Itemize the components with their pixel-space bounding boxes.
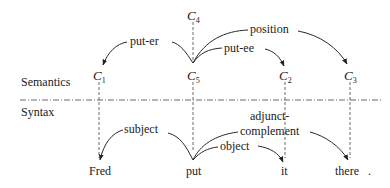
word-it: it — [281, 164, 288, 178]
syntax-label: Syntax — [21, 105, 54, 119]
put-ee-label: put-ee — [224, 41, 254, 55]
word-there: there — [335, 164, 359, 178]
svg-text:C5: C5 — [187, 68, 200, 85]
adjunct-complement-arc-right — [310, 132, 348, 160]
node-c2: C2 — [279, 68, 292, 85]
svg-text:C1: C1 — [93, 68, 106, 85]
adjunct-label: adjunct- — [250, 109, 289, 123]
svg-text:C2: C2 — [279, 68, 292, 85]
position-label: position — [250, 22, 289, 36]
svg-text:C3: C3 — [344, 68, 357, 85]
semantics-label: Semantics — [21, 75, 71, 89]
node-c5: C5 — [187, 68, 200, 85]
word-fred: Fred — [89, 164, 111, 178]
node-c4: C4 — [187, 8, 200, 25]
complement-label: complement — [240, 124, 300, 138]
semantics-syntax-diagram: Semantics Syntax C4 C1 C5 C2 C3 put-er p… — [0, 0, 390, 188]
put-er-arc-left — [103, 42, 127, 65]
subject-arc-left — [100, 130, 123, 160]
put-er-arc-right — [172, 42, 193, 63]
subject-label: subject — [124, 122, 159, 136]
put-er-label: put-er — [130, 34, 159, 48]
put-ee-arc-right — [265, 49, 284, 66]
subject-arc-right — [168, 133, 193, 160]
node-c1: C1 — [93, 68, 106, 85]
period: . — [368, 164, 371, 178]
object-arc-right — [258, 146, 283, 162]
node-c3: C3 — [344, 68, 357, 85]
svg-text:C4: C4 — [187, 8, 200, 25]
object-label: object — [220, 139, 250, 153]
position-arc-right — [298, 31, 347, 64]
word-put: put — [186, 164, 202, 178]
